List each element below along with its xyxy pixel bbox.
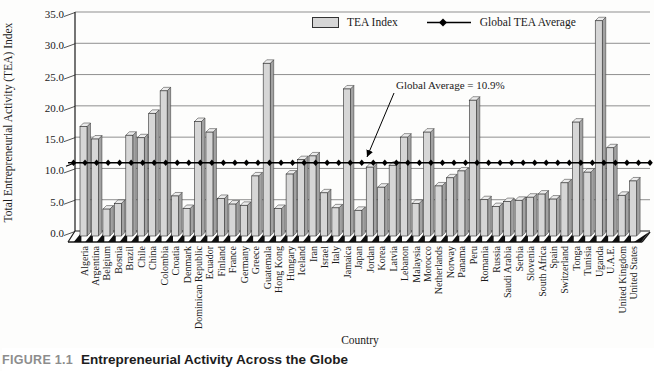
bar-chile (137, 134, 148, 236)
bar-norway (446, 174, 457, 236)
bar-united-states (630, 177, 641, 236)
x-category-label-brazil: Brazil (124, 246, 135, 334)
bar-spain (549, 196, 560, 236)
bar-russia (492, 203, 503, 236)
average-diamond-icon (278, 160, 284, 166)
bar-jordan (366, 164, 377, 236)
x-category-label-united-states: United States (628, 246, 639, 334)
x-category-label-iran: Iran (308, 246, 319, 334)
x-category-label-colombia: Colombia (159, 246, 170, 334)
bar-tunisia (584, 169, 595, 236)
bar-belgium (103, 206, 114, 236)
x-category-label-dominican-republic: Dominican Republic (193, 246, 204, 334)
x-category-label-iceland: Iceland (296, 246, 307, 334)
x-category-label-united-kingdom: United Kingdom (617, 246, 628, 334)
figure-caption: FIGURE 1.1 Entrepreneurial Activity Acro… (2, 348, 654, 371)
bar-slovenia (527, 194, 538, 236)
legend-line-marker-icon (426, 17, 472, 28)
bar-hong-kong (275, 205, 286, 236)
x-category-label-croatia: Croatia (170, 246, 181, 334)
y-tick-label: 5.0 (32, 196, 64, 208)
annotation-arrow (367, 93, 394, 157)
x-category-label-hungary: Hungary (285, 246, 296, 334)
bar-ecuador (206, 129, 217, 236)
bar-iran (309, 152, 320, 236)
x-category-label-norway: Norway (445, 246, 456, 334)
bar-germany (240, 202, 251, 236)
average-diamond-icon (509, 160, 515, 166)
global-average-line (66, 160, 653, 167)
bar-jamaica (343, 85, 354, 236)
x-category-label-japan: Japan (353, 246, 364, 334)
bar-iceland (298, 156, 309, 236)
x-category-label-hong-kong: Hong Kong (273, 246, 284, 334)
average-diamond-icon (382, 160, 388, 166)
x-category-label-switzerland: Switzerland (559, 246, 570, 334)
bar-south-africa (538, 191, 549, 236)
bar-hungary (286, 171, 297, 236)
average-diamond-icon (497, 160, 503, 166)
bar-morocco (424, 129, 435, 236)
y-tick-label: 10.0 (32, 164, 64, 176)
average-diamond-icon (232, 160, 238, 166)
x-category-label-slovenia: Slovenia (525, 246, 536, 334)
y-tick-mark (64, 106, 75, 110)
average-diamond-icon (636, 160, 642, 166)
figure-caption-label: FIGURE 1.1 (2, 353, 73, 367)
legend: TEA Index Global TEA Average (312, 16, 576, 28)
bar-peru (469, 97, 480, 236)
bar-greece (252, 172, 263, 236)
bar-panama (458, 167, 469, 236)
average-diamond-icon (440, 160, 446, 166)
x-category-label-russia: Russia (491, 246, 502, 334)
average-diamond-icon (244, 160, 250, 166)
x-category-label-lebanon: Lebanon (399, 246, 410, 334)
x-category-label-italy: Italy (330, 246, 341, 334)
average-diamond-icon (105, 160, 111, 166)
bar-croatia (172, 192, 183, 236)
x-category-label-algeria: Algeria (79, 246, 90, 334)
average-diamond-icon (486, 160, 492, 166)
bar-italy (332, 204, 343, 236)
x-category-label-guatemala: Guatemala (262, 246, 273, 334)
average-diamond-icon (463, 160, 469, 166)
global-average-annotation: Global Average = 10.9% (396, 79, 505, 91)
bar-romania (481, 196, 492, 236)
average-diamond-icon (174, 160, 180, 166)
bar-u-a-e- (607, 144, 618, 236)
x-category-label-netherlands: Netherlands (433, 246, 444, 334)
x-category-label-peru: Peru (468, 246, 479, 334)
bar-guatemala (263, 60, 274, 236)
tea-figure: 0.05.010.015.020.025.030.035.0 AlgeriaAr… (0, 0, 654, 371)
bar-dominican-republic (195, 118, 206, 236)
average-diamond-icon (566, 160, 572, 166)
bar-united-kingdom (618, 192, 629, 236)
y-tick-label: 20.0 (32, 102, 64, 114)
x-category-label-panama: Panama (456, 246, 467, 334)
bar-japan (355, 207, 366, 236)
y-tick-mark (64, 75, 75, 79)
x-category-label-denmark: Denmark (182, 246, 193, 334)
bar-algeria (80, 123, 91, 236)
x-category-label-jamaica: Jamaica (342, 246, 353, 334)
bar-uganda (595, 17, 606, 236)
y-tick-label: 30.0 (32, 39, 64, 51)
legend-line-label: Global TEA Average (480, 16, 576, 28)
bar-tonga (572, 119, 583, 236)
bar-brazil (126, 132, 137, 236)
average-diamond-icon (624, 160, 630, 166)
bar-serbia (515, 197, 526, 236)
bar-china (149, 110, 160, 236)
average-diamond-icon (359, 160, 365, 166)
x-category-label-south-africa: South Africa (537, 246, 548, 334)
legend-bar-label: TEA Index (347, 16, 398, 28)
x-category-label-greece: Greece (250, 246, 261, 334)
average-diamond-icon (543, 160, 549, 166)
average-diamond-icon (221, 160, 227, 166)
y-tick-mark (64, 200, 75, 204)
x-category-label-malaysia: Malaysia (411, 246, 422, 334)
x-category-label-spain: Spain (548, 246, 559, 334)
y-tick-label: 25.0 (32, 71, 64, 83)
y-tick-mark (64, 13, 75, 17)
average-diamond-icon (336, 160, 342, 166)
